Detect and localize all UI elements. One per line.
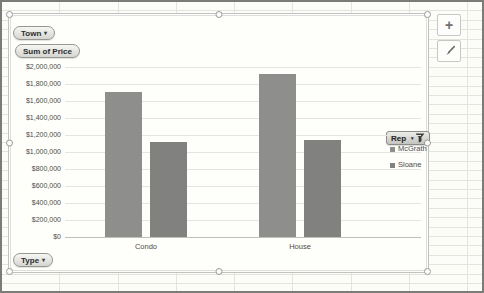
bar-sloane-condo	[150, 142, 187, 237]
plot-area: CondoHouse	[65, 67, 421, 237]
chart-styles-button[interactable]	[437, 40, 461, 62]
selection-handle-top-left[interactable]	[6, 11, 13, 18]
legend-label: McGrath	[398, 145, 427, 153]
y-tick-label: $1,400,000	[9, 114, 61, 122]
chart-elements-button[interactable]: +	[437, 14, 461, 36]
y-gridline	[65, 84, 421, 85]
selection-handle-top-center[interactable]	[215, 11, 222, 18]
y-tick-label: $400,000	[9, 199, 61, 207]
y-gridline	[65, 67, 421, 68]
chart-legend: McGrathSloane	[390, 145, 434, 177]
selection-handle-top-right[interactable]	[424, 11, 431, 18]
bar-mcgrath-condo	[105, 92, 142, 237]
excel-pivotchart-screenshot: Town ▾ Sum of Price Type ▾ Rep ▾ $2,000,…	[0, 0, 484, 293]
y-tick-label: $1,000,000	[9, 148, 61, 156]
y-tick-label: $800,000	[9, 165, 61, 173]
plus-icon: +	[445, 18, 453, 32]
pivot-chart-object[interactable]: Town ▾ Sum of Price Type ▾ Rep ▾ $2,000,…	[8, 13, 429, 273]
y-tick-label: $1,200,000	[9, 131, 61, 139]
y-tick-label: $1,800,000	[9, 80, 61, 88]
y-gridline	[65, 237, 421, 238]
legend-entry: Sloane	[390, 161, 434, 169]
category-label: Condo	[111, 242, 181, 251]
selection-handle-bottom-right[interactable]	[424, 268, 431, 275]
bar-sloane-house	[304, 140, 341, 237]
y-axis: $2,000,000$1,800,000$1,600,000$1,400,000…	[9, 14, 61, 272]
legend-swatch-icon	[390, 147, 395, 152]
y-tick-label: $600,000	[9, 182, 61, 190]
selection-handle-mid-right[interactable]	[424, 140, 431, 147]
selection-handle-bottom-left[interactable]	[6, 268, 13, 275]
category-label: House	[265, 242, 335, 251]
selection-handle-mid-left[interactable]	[6, 140, 13, 147]
y-tick-label: $200,000	[9, 216, 61, 224]
y-tick-label: $1,600,000	[9, 97, 61, 105]
bar-mcgrath-house	[259, 74, 296, 237]
paintbrush-icon	[443, 45, 456, 58]
selection-handle-bottom-center[interactable]	[215, 268, 222, 275]
legend-swatch-icon	[390, 163, 395, 168]
y-tick-label: $2,000,000	[9, 63, 61, 71]
legend-label: Sloane	[398, 161, 421, 169]
y-tick-label: $0	[9, 233, 61, 241]
